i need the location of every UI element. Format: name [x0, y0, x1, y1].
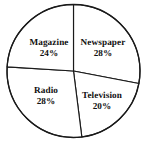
pie-label-television: Television20%: [82, 90, 122, 111]
pie-label-newspaper: Newspaper28%: [81, 37, 126, 58]
pie-label-percent-television: 20%: [82, 101, 122, 112]
pie-chart: Newspaper28%Television20%Radio28%Magazin…: [0, 0, 154, 145]
pie-label-name-radio: Radio: [34, 85, 58, 96]
pie-label-percent-magazine: 24%: [29, 48, 68, 59]
pie-label-name-newspaper: Newspaper: [81, 37, 126, 48]
pie-label-radio: Radio28%: [34, 85, 58, 106]
pie-label-percent-radio: 28%: [34, 96, 58, 107]
pie-chart-svg: [0, 0, 154, 145]
pie-label-magazine: Magazine24%: [29, 37, 68, 58]
pie-label-name-magazine: Magazine: [29, 37, 68, 48]
pie-label-name-television: Television: [82, 90, 122, 101]
pie-label-percent-newspaper: 28%: [81, 48, 126, 59]
pie-slices-group: [7, 4, 140, 137]
